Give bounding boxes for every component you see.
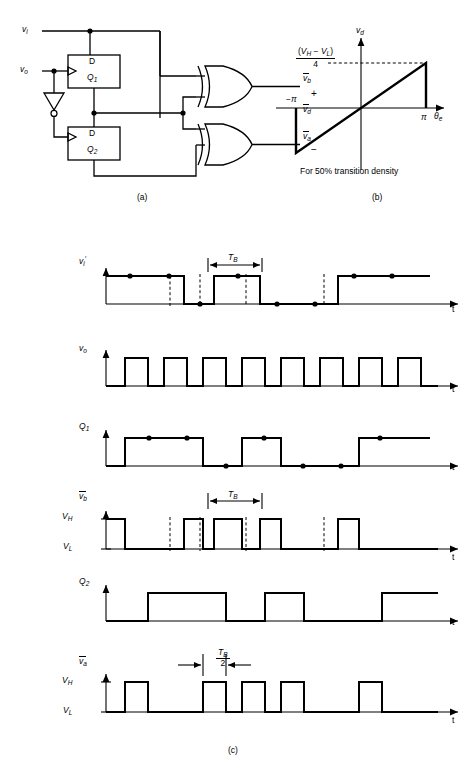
trace-label-q1: Q1 (79, 422, 89, 433)
panel-tag-c: (c) (228, 745, 238, 755)
label-vo: vo (20, 65, 28, 76)
waveform-vo (90, 338, 466, 398)
time-axis-label-1: t (452, 305, 454, 314)
label-ff2-d: D (89, 129, 95, 138)
marker-label-tb-2: TB (228, 490, 238, 501)
plot-annotation: For 50% transition density (300, 166, 398, 176)
time-axis-label-3: t (452, 463, 454, 472)
waveform-vi-prime (90, 250, 466, 320)
xtick-label-minus-pi: −π (286, 95, 297, 104)
panel-tag-a: (a) (137, 192, 147, 202)
trace-label-va-bar: va (79, 657, 87, 668)
amplitude-axis-arrowhead (103, 511, 110, 519)
time-axis-label-6: t (452, 716, 454, 725)
amplitude-axis-arrowhead (103, 350, 110, 358)
trace-label-vb-bar: vb (79, 492, 87, 503)
inverter-triangle (44, 93, 64, 110)
xaxis-label-theta-e: θe (434, 112, 442, 123)
time-axis-label-4: t (452, 553, 454, 562)
panel-tag-b: (b) (372, 192, 382, 202)
label-ff1-q: Q1 (87, 73, 97, 84)
amplitude-axis-arrowhead (103, 268, 110, 276)
amplitude-axis-arrowhead (103, 585, 110, 593)
time-axis-label-2: t (452, 385, 454, 394)
label-ff1-d: D (89, 57, 95, 66)
amplitude-axis-arrowhead (103, 674, 110, 682)
trace-label-vi-prime: vi′ (79, 256, 86, 268)
label-vi: vi (22, 25, 28, 36)
time-axis-label-5: t (452, 618, 454, 627)
trace-label-vo: vo (79, 344, 87, 355)
figure-root: vi vo D Q1 D Q2 vb + vd va − (a) (0, 0, 466, 764)
marker-label-tb-1: TB (228, 253, 238, 264)
waveform-vb-bar (90, 487, 466, 567)
level-label-vh-2: VH (62, 676, 72, 687)
waveform-q1 (90, 416, 466, 478)
trace-label-q2: Q2 (79, 577, 89, 588)
xtick-label-pi: π (421, 113, 427, 122)
waveform-q2 (90, 571, 466, 633)
yaxis-label-vd: vd (356, 26, 364, 37)
marker-label-tb-half: TB 2 (216, 648, 230, 668)
y-axis-arrowhead (358, 38, 365, 46)
level-label-vl-2: VL (63, 706, 72, 717)
label-ff2-q: Q2 (87, 145, 97, 156)
level-label-vl-1: VL (63, 542, 72, 553)
peak-value-label: (VH − VL) 4 (296, 47, 335, 70)
amplitude-axis-arrowhead (103, 430, 110, 438)
level-label-vh-1: VH (62, 512, 72, 523)
waveform-va-bar (90, 652, 466, 732)
inverter-bubble (51, 110, 57, 116)
